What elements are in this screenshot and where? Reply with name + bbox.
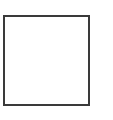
square-shape xyxy=(3,15,90,106)
